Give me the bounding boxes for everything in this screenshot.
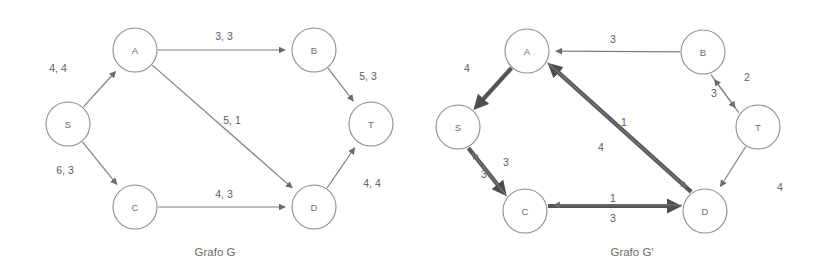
node-label-graph-g-prime-B: B	[700, 47, 706, 58]
caption-graph-g-prime: Grafo G'	[610, 246, 653, 258]
node-label-graph-g-S: S	[65, 119, 71, 130]
edge-label-graph-g-prime-T-D: 4	[777, 181, 783, 193]
edge-label-graph-g-S-C: 6, 3	[56, 164, 74, 176]
node-label-graph-g-prime-A: A	[524, 46, 531, 57]
edge-label-graph-g-D-T: 4, 4	[363, 177, 381, 189]
edge-label-graph-g-prime-C-D: 1	[610, 192, 616, 204]
node-label-graph-g-B: B	[311, 45, 317, 56]
edge-label-graph-g-prime-A-S: 4	[464, 62, 470, 74]
edge-label-graph-g-prime-S-C: 3	[481, 168, 487, 180]
edge-label-graph-g-prime-A-D: 4	[598, 141, 604, 153]
edge-label-graph-g-A-B: 3, 3	[215, 30, 233, 42]
edge-graph-g-S-A	[83, 72, 115, 107]
node-label-graph-g-prime-C: C	[522, 206, 529, 217]
node-label-graph-g-prime-S: S	[455, 122, 461, 133]
edge-graph-g-prime-C-S	[472, 153, 507, 196]
graph-figure-svg: SACBDTSACBDT 4, 46, 33, 35, 15, 34, 34, …	[0, 0, 822, 280]
edge-label-graph-g-prime-T-B: 3	[711, 87, 717, 99]
edge-graph-g-B-T	[328, 68, 353, 101]
edge-graph-g-prime-T-D	[720, 146, 745, 186]
edge-graph-g-prime-B-A	[556, 51, 680, 52]
edge-graph-g-prime-A-S	[477, 68, 511, 106]
edge-label-graph-g-prime-B-T: 2	[744, 71, 750, 83]
edge-graph-g-prime-T-B	[715, 80, 739, 113]
edge-graph-g-A-D	[152, 65, 292, 188]
edge-label-graph-g-C-D: 4, 3	[215, 188, 233, 200]
figure-canvas: SACBDTSACBDT 4, 46, 33, 35, 15, 34, 34, …	[0, 0, 822, 280]
caption-graph-g: Grafo G	[195, 246, 236, 258]
node-label-graph-g-C: C	[132, 202, 139, 213]
edge-graph-g-D-T	[327, 148, 355, 188]
nodes-layer: SACBDTSACBDT	[46, 28, 780, 233]
edge-label-graph-g-prime-D-A: 1	[621, 116, 627, 128]
node-label-graph-g-T: T	[368, 119, 374, 130]
edge-label-graph-g-prime-D-C: 3	[610, 212, 616, 224]
edge-graph-g-S-C	[82, 142, 116, 185]
node-label-graph-g-D: D	[311, 202, 318, 213]
node-label-graph-g-A: A	[132, 45, 139, 56]
edge-label-graph-g-S-A: 4, 4	[49, 62, 67, 74]
edges-layer	[82, 50, 745, 207]
node-label-graph-g-prime-T: T	[755, 122, 761, 133]
edge-graph-g-prime-A-D	[547, 63, 686, 188]
edge-labels-layer: 4, 46, 33, 35, 15, 34, 34, 443231433134	[49, 30, 783, 224]
edge-label-graph-g-B-T: 5, 3	[359, 70, 377, 82]
captions-layer: Grafo GGrafo G'	[195, 246, 654, 258]
node-label-graph-g-prime-D: D	[702, 206, 709, 217]
edge-label-graph-g-prime-B-A: 3	[610, 33, 616, 45]
edge-label-graph-g-prime-C-S: 3	[503, 156, 509, 168]
edge-label-graph-g-A-D: 5, 1	[223, 114, 241, 126]
